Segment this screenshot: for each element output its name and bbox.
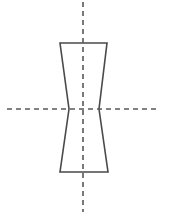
drawing-canvas xyxy=(0,0,170,220)
technical-drawing-svg xyxy=(0,0,170,220)
hourglass-outline-path xyxy=(60,43,108,172)
